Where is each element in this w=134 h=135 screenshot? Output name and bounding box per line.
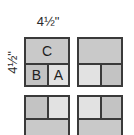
quilt-block-bottom-left xyxy=(24,95,70,135)
quilt-block-top-right xyxy=(77,37,123,87)
height-dimension-label: 4½" xyxy=(5,45,20,81)
patch-b xyxy=(102,65,121,85)
quilt-block-bottom-right xyxy=(77,95,123,135)
patch-a xyxy=(49,97,68,118)
patch-b xyxy=(102,97,121,118)
patch-c: C xyxy=(26,39,68,63)
patch-b: B xyxy=(26,65,47,85)
patch-c xyxy=(79,39,121,63)
patch-b-label: B xyxy=(32,67,41,83)
patch-a xyxy=(79,65,100,85)
patch-a-label: A xyxy=(54,67,63,83)
patch-a: A xyxy=(49,65,68,85)
quilt-block-top-left: C B A xyxy=(24,37,70,87)
patch-c xyxy=(26,120,68,135)
patch-c xyxy=(79,120,121,135)
patch-b xyxy=(26,97,47,118)
patch-c-label: C xyxy=(42,43,52,59)
patch-a xyxy=(79,97,100,118)
width-dimension-label: 4½" xyxy=(28,14,68,29)
